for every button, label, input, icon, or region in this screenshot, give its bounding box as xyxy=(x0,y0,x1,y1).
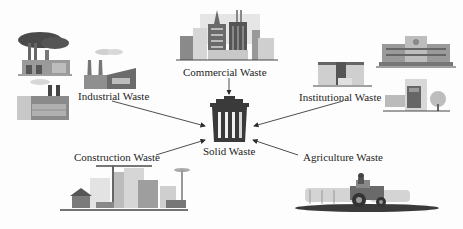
construction-waste-label: Construction Waste xyxy=(74,151,160,163)
arrow-construction xyxy=(156,140,205,155)
arrow-industrial xyxy=(112,101,205,126)
agriculture-waste-label: Agriculture Waste xyxy=(303,151,383,163)
construction-site-icon xyxy=(60,165,190,210)
tractor-icon xyxy=(295,173,439,212)
arrow-institutional xyxy=(254,101,343,126)
diagram-art xyxy=(0,0,463,229)
waste-sources-diagram: Industrial Waste Commercial Waste Instit… xyxy=(0,0,463,229)
city-buildings-icon xyxy=(176,10,278,60)
commercial-waste-label: Commercial Waste xyxy=(183,66,267,78)
arrow-agriculture xyxy=(253,140,298,155)
institutional-waste-label: Institutional Waste xyxy=(299,91,381,103)
trash-bin-icon xyxy=(210,96,249,142)
industrial-waste-label: Industrial Waste xyxy=(78,90,149,102)
solid-waste-label: Solid Waste xyxy=(203,145,255,157)
factory-icon xyxy=(17,32,136,120)
